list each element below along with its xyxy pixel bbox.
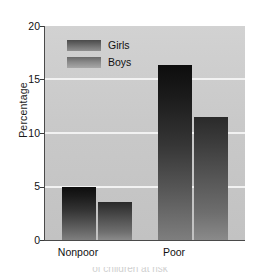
- legend: Girls Boys: [67, 38, 131, 72]
- legend-item-boys: Boys: [67, 55, 131, 69]
- bar-nonpoor-boys: [98, 202, 132, 241]
- y-tick-label-0: 0: [18, 235, 40, 246]
- y-axis-ticks: 20 15 10 5 0: [14, 0, 40, 274]
- bar-nonpoor-girls: [62, 187, 96, 241]
- y-tick-label-15: 15: [18, 74, 40, 85]
- x-tick-label-nonpoor: Nonpoor: [43, 246, 113, 258]
- x-tick-label-poor: Poor: [139, 246, 209, 258]
- legend-swatch-girls-icon: [67, 40, 101, 51]
- y-tick-label-20: 20: [18, 21, 40, 32]
- gridline-15: [45, 78, 245, 80]
- bar-poor-boys: [194, 117, 228, 240]
- legend-label-girls: Girls: [108, 40, 130, 51]
- y-tick-label-5: 5: [18, 181, 40, 192]
- plot-area: Girls Boys: [44, 26, 245, 241]
- caption-fragment: of children at risk: [0, 267, 260, 274]
- legend-item-girls: Girls: [67, 38, 131, 52]
- legend-label-boys: Boys: [108, 57, 131, 68]
- legend-swatch-boys-icon: [67, 57, 101, 68]
- caption-fragment-text: of children at risk: [0, 267, 260, 274]
- bar-chart-figure: Percentage 20 15 10 5 0 Girls Boy: [0, 0, 260, 274]
- bar-poor-girls: [158, 65, 192, 241]
- y-tick-label-10: 10: [18, 128, 40, 139]
